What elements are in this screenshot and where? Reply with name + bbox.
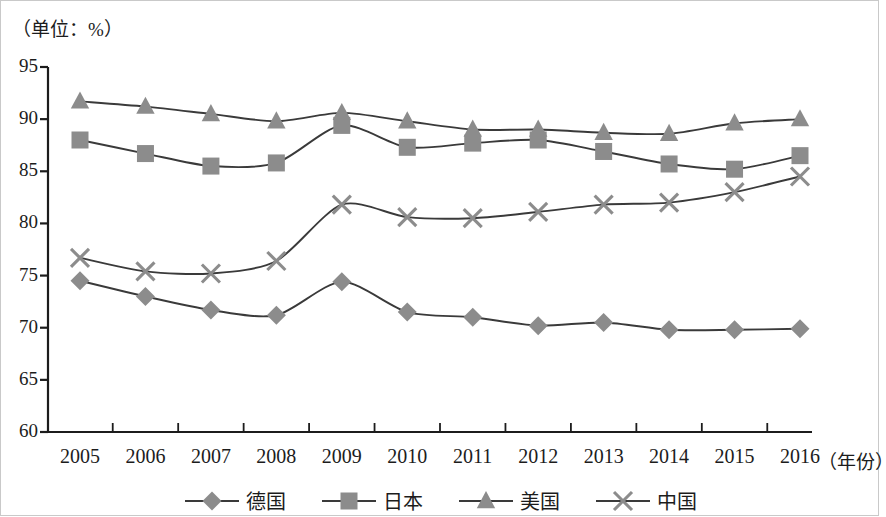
triangle-marker: [594, 123, 612, 140]
data-point-square: [202, 158, 219, 175]
data-point-triangle: [71, 91, 89, 108]
data-point-diamond: [203, 491, 222, 510]
square-marker: [792, 147, 809, 164]
square-marker: [202, 158, 219, 175]
diamond-marker: [791, 319, 810, 338]
legend-label: 美国: [520, 486, 560, 515]
diamond-marker: [594, 313, 613, 332]
legend-label: 德国: [246, 486, 286, 515]
data-point-square: [726, 161, 743, 178]
y-axis-tick-label: 80: [4, 211, 38, 233]
data-point-diamond: [594, 313, 613, 332]
data-point-diamond: [267, 306, 286, 325]
series-line-中国: [80, 177, 800, 275]
x-axis-tick-label: 2010: [375, 445, 439, 468]
data-point-square: [792, 147, 809, 164]
diamond-marker: [725, 320, 744, 339]
legend-item-triangle[interactable]: 美国: [457, 486, 560, 515]
chart-legend: 德国日本美国中国: [0, 486, 880, 515]
square-marker: [137, 145, 154, 162]
data-point-square: [464, 135, 481, 152]
data-point-diamond: [398, 303, 417, 322]
data-point-square: [137, 145, 154, 162]
data-point-square: [399, 139, 416, 156]
data-point-cross: [726, 183, 744, 201]
data-point-triangle: [267, 111, 285, 128]
legend-item-square[interactable]: 日本: [320, 486, 423, 515]
legend-item-diamond[interactable]: 德国: [183, 486, 286, 515]
data-point-diamond: [201, 300, 220, 319]
x-axis-tick-label: 2015: [703, 445, 767, 468]
diamond-marker: [203, 491, 222, 510]
triangle-marker: [477, 491, 495, 508]
data-point-triangle: [594, 123, 612, 140]
data-point-cross: [267, 252, 285, 270]
y-axis-tick-label: 70: [4, 316, 38, 338]
legend-item-cross[interactable]: 中国: [594, 486, 697, 515]
diamond-marker: [71, 271, 90, 290]
data-point-diamond: [660, 320, 679, 339]
diamond-marker: [201, 300, 220, 319]
series-line-日本: [80, 125, 800, 169]
legend-label: 日本: [383, 486, 423, 515]
data-point-square: [595, 143, 612, 160]
x-axis-tick-label: 2009: [310, 445, 374, 468]
y-axis-tick-label: 75: [4, 264, 38, 286]
legend-swatch-square-icon: [320, 489, 378, 513]
x-axis-tick-label: 2012: [506, 445, 570, 468]
diamond-marker: [529, 316, 548, 335]
data-point-diamond: [791, 319, 810, 338]
triangle-marker: [529, 120, 547, 137]
x-axis-tick-label: 2007: [179, 445, 243, 468]
x-axis-tick-label: 2014: [637, 445, 701, 468]
legend-swatch-diamond-icon: [183, 489, 241, 513]
data-point-diamond: [136, 287, 155, 306]
diamond-marker: [136, 287, 155, 306]
y-axis-tick-label: 85: [4, 159, 38, 181]
data-point-square: [72, 132, 89, 149]
data-point-cross: [791, 168, 809, 186]
diamond-marker: [398, 303, 417, 322]
square-marker: [661, 155, 678, 172]
x-axis-tick-label: 2006: [113, 445, 177, 468]
data-point-triangle: [333, 103, 351, 120]
y-axis-tick-label: 95: [4, 55, 38, 77]
data-point-diamond: [529, 316, 548, 335]
legend-swatch-triangle-icon: [457, 489, 515, 513]
data-point-square: [268, 154, 285, 171]
x-axis-tick-label: 2013: [572, 445, 636, 468]
square-marker: [595, 143, 612, 160]
data-point-diamond: [332, 272, 351, 291]
diamond-marker: [332, 272, 351, 291]
triangle-marker: [267, 111, 285, 128]
data-point-diamond: [463, 308, 482, 327]
triangle-marker: [71, 91, 89, 108]
legend-swatch-cross-icon: [594, 489, 652, 513]
square-marker: [341, 492, 358, 509]
square-marker: [399, 139, 416, 156]
data-point-cross: [333, 196, 351, 214]
diamond-marker: [463, 308, 482, 327]
series-line-德国: [80, 281, 800, 330]
y-axis-tick-label: 65: [4, 368, 38, 390]
diamond-marker: [660, 320, 679, 339]
series-lines: [80, 101, 800, 330]
square-marker: [268, 154, 285, 171]
square-marker: [726, 161, 743, 178]
triangle-marker: [333, 103, 351, 120]
y-axis-tick-label: 90: [4, 107, 38, 129]
data-point-diamond: [71, 271, 90, 290]
legend-label: 中国: [657, 486, 697, 515]
data-point-cross: [71, 249, 89, 267]
x-axis-title: （年份）: [818, 447, 886, 474]
data-point-square: [661, 155, 678, 172]
x-axis-tick-label: 2008: [244, 445, 308, 468]
square-marker: [464, 135, 481, 152]
data-point-square: [341, 492, 358, 509]
data-point-triangle: [529, 120, 547, 137]
data-point-triangle: [791, 109, 809, 126]
x-axis-tick-label: 2005: [48, 445, 112, 468]
y-axis-tick-label: 60: [4, 420, 38, 442]
